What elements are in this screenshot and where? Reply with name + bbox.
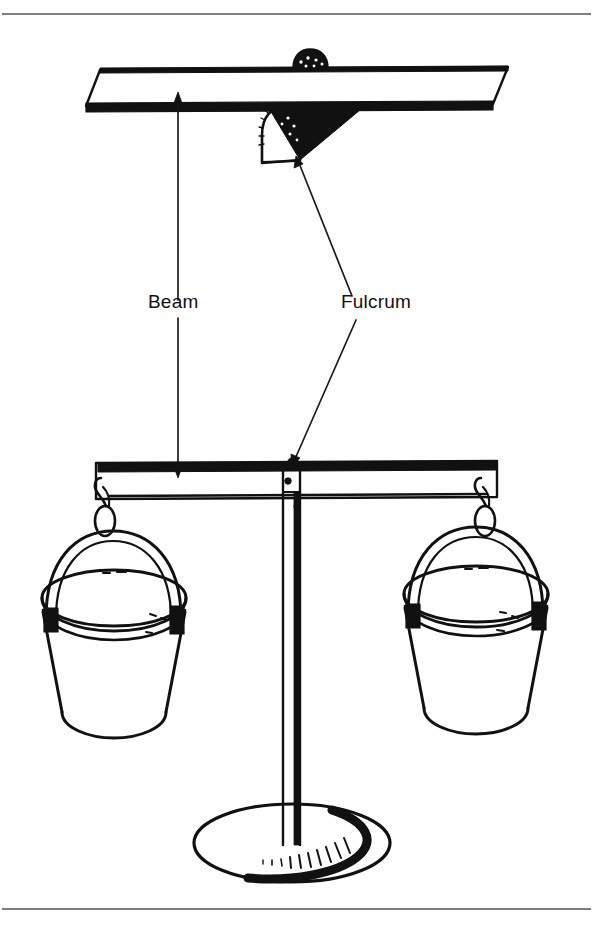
right-bucket-rim [404,566,548,622]
base-shadow-arc [248,810,367,879]
right-bucket-handle-inner [418,537,533,614]
right-hook-upper [475,478,486,506]
post-collar-bolt [285,478,291,484]
base-plate-group [194,804,390,882]
base-ellipse [194,804,390,882]
left-s-hook-group [95,478,115,536]
fulcrum-label: Fulcrum [341,291,411,312]
fulcrum-leader-down [295,320,356,459]
upper-beam-group [86,49,508,163]
left-bucket-bottom [62,712,166,738]
left-hook-upper [95,478,106,506]
figure-root: Beam Fulcrum [0,0,593,942]
right-bucket-handle-outer [408,527,543,614]
fulcrum-leader-up [299,163,352,296]
beam-arrowhead-up [174,92,182,103]
beam-label: Beam [148,291,198,312]
callouts: Beam Fulcrum [148,92,411,478]
right-bucket-bottom [424,708,528,734]
left-bucket-rim [42,570,186,626]
left-bucket [42,531,186,738]
fulcrum-dome-base [262,161,299,162]
left-bucket-handle-inner [56,541,171,618]
pivot-point [288,458,299,469]
left-bucket-handle-outer [46,531,181,618]
right-bucket [404,527,548,734]
post-shading [294,505,300,845]
right-hook-ring [475,506,495,536]
fulcrum-shadow-wedge [270,110,360,160]
post-collar-shadow [294,492,300,512]
center-post-group [283,467,300,845]
balance-scale-illustration: Beam Fulcrum [0,0,593,942]
